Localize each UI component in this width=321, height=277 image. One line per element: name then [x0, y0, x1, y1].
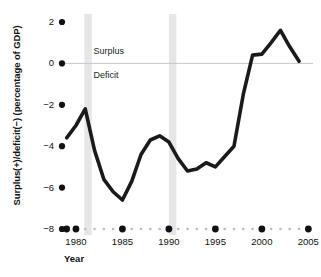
- x-tick-label: 1980: [56, 236, 96, 247]
- y-tick-dot: [59, 185, 65, 191]
- x-tick-dot-minor: [270, 228, 273, 231]
- x-tick-dot-minor: [298, 228, 301, 231]
- y-tick-label: −2: [32, 99, 54, 110]
- x-tick-dot-minor: [93, 228, 96, 231]
- x-tick-label: 2005: [288, 236, 321, 247]
- y-tick-dot: [59, 102, 65, 108]
- x-tick-dot-minor: [288, 228, 291, 231]
- chart-figure: Surplus(+)/deficit(−) (percentage of GDP…: [0, 0, 321, 277]
- x-tick-dot-minor: [149, 228, 152, 231]
- y-tick-dot: [59, 60, 65, 66]
- x-tick-dot-minor: [251, 228, 254, 231]
- y-tick-dot: [59, 143, 65, 149]
- x-tick-dot-major: [166, 226, 173, 233]
- x-tick-dot-minor: [242, 228, 245, 231]
- recession-band: [169, 14, 176, 235]
- y-axis-title: Surplus(+)/deficit(−) (percentage of GDP…: [11, 6, 22, 226]
- x-tick-dot-major: [73, 226, 80, 233]
- y-tick-label: −6: [32, 182, 54, 193]
- y-axis-tick-dots: [59, 19, 65, 232]
- x-tick-label: 1985: [102, 236, 142, 247]
- x-tick-dot-minor: [158, 228, 161, 231]
- x-tick-dot-minor: [205, 228, 208, 231]
- x-tick-label: 1995: [195, 236, 235, 247]
- y-tick-label: −8: [32, 223, 54, 234]
- x-tick-dot-major: [63, 226, 70, 233]
- x-tick-label: 2000: [242, 236, 282, 247]
- x-tick-dot-major: [119, 226, 126, 233]
- x-tick-dot-minor: [140, 228, 143, 231]
- x-tick-dot-major: [258, 226, 265, 233]
- x-axis-tick-dots: [63, 226, 312, 233]
- x-tick-dot-minor: [186, 228, 189, 231]
- x-tick-dot-minor: [279, 228, 282, 231]
- x-tick-dot-minor: [233, 228, 236, 231]
- x-tick-dot-major: [212, 226, 219, 233]
- x-tick-dot-minor: [84, 228, 87, 231]
- y-tick-label: 2: [32, 16, 54, 27]
- annotation-surplus: Surplus: [94, 46, 125, 56]
- x-axis-title: Year: [64, 253, 84, 264]
- x-tick-dot-minor: [195, 228, 198, 231]
- x-tick-dot-minor: [112, 228, 115, 231]
- y-tick-dot: [59, 19, 65, 25]
- x-tick-dot-minor: [177, 228, 180, 231]
- x-tick-dot-major: [305, 226, 312, 233]
- x-tick-label: 1990: [149, 236, 189, 247]
- x-tick-dot-minor: [223, 228, 226, 231]
- y-tick-label: −4: [32, 140, 54, 151]
- y-tick-label: 0: [32, 57, 54, 68]
- annotation-deficit: Deficit: [94, 70, 119, 80]
- x-tick-dot-minor: [130, 228, 133, 231]
- x-tick-dot-minor: [103, 228, 106, 231]
